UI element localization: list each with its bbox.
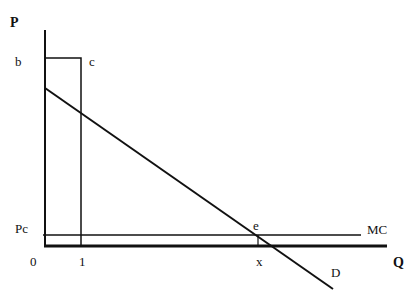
label-x: x bbox=[256, 254, 263, 269]
quantity-axis-label: Q bbox=[393, 255, 404, 270]
label-c: c bbox=[89, 54, 95, 69]
price-box-b-c bbox=[45, 58, 81, 246]
origin-label: 0 bbox=[30, 254, 37, 269]
label-one: 1 bbox=[79, 254, 86, 269]
label-mc: MC bbox=[367, 222, 387, 237]
economics-diagram: P Q 0 b c Pc 1 e x MC D bbox=[0, 0, 419, 306]
price-axis-label: P bbox=[10, 15, 19, 30]
label-b: b bbox=[15, 54, 22, 69]
label-pc: Pc bbox=[15, 221, 28, 236]
label-d: D bbox=[331, 265, 340, 280]
label-e: e bbox=[253, 218, 259, 233]
demand-curve bbox=[45, 88, 333, 289]
